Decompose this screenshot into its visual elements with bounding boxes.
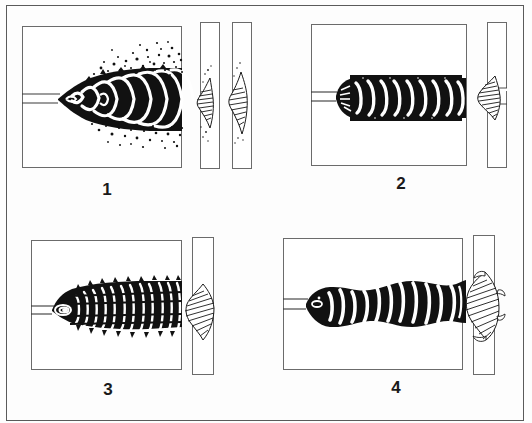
weld-bead-figure: 1	[0, 0, 532, 423]
panel-4-label: 4	[373, 378, 419, 398]
section-4a	[466, 271, 505, 341]
panel-4-section-artwork	[0, 0, 532, 423]
